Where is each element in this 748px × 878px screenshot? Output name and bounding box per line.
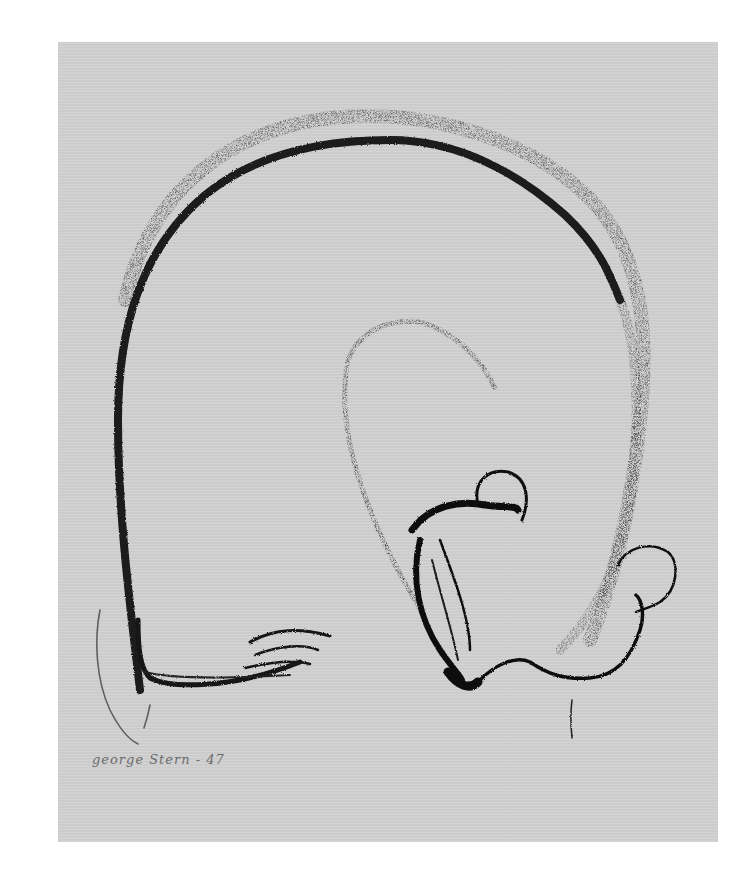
artist-signature: george Stern - 47 [92, 752, 225, 767]
front-paw-and-muzzle [412, 503, 518, 686]
right-flank-chalk [560, 300, 637, 650]
head-arc [345, 321, 495, 612]
ear-right [618, 546, 676, 612]
jaw-line [480, 595, 643, 738]
back-outline-main [118, 140, 620, 690]
bear-drawing [0, 0, 748, 878]
hind-leg [138, 620, 330, 685]
